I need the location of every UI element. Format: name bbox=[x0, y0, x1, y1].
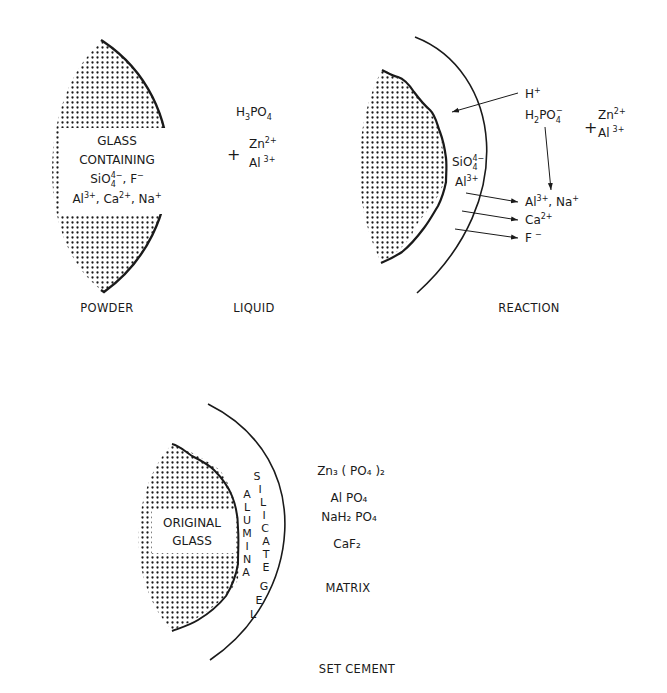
liquid-aluminium-ion: Al3+ bbox=[249, 155, 275, 170]
reacting-glass-core bbox=[359, 70, 445, 262]
reaction-zinc-ion: Zn2+ bbox=[598, 107, 626, 122]
phosphoric-acid-label: H3PO4 bbox=[236, 105, 272, 122]
matrix-sodium-dihydrogen-phosphate: NaH₂ PO₄ bbox=[321, 510, 377, 524]
surface-silicate-ion: SiO44− bbox=[452, 154, 484, 172]
matrix-calcium-fluoride: CaF₂ bbox=[333, 537, 361, 551]
original-glass-label-line1: ORIGINAL bbox=[163, 516, 221, 530]
reaction-aluminium-ion: Al3+ bbox=[598, 125, 624, 140]
liquid-caption: LIQUID bbox=[233, 301, 274, 315]
svg-text:L: L bbox=[244, 501, 251, 514]
reaction-plus-sign: + bbox=[584, 118, 597, 137]
glass-ionomer-setting-diagram: GLASS CONTAINING SiO44−, F− Al3+, Ca2+, … bbox=[0, 0, 667, 693]
silicate-gel-label: S I L I C A T E bbox=[254, 470, 271, 574]
svg-text:N: N bbox=[243, 553, 251, 566]
svg-text:A: A bbox=[242, 566, 250, 579]
powder-caption: POWDER bbox=[80, 301, 133, 315]
svg-text:M: M bbox=[242, 527, 252, 540]
powder-panel: GLASS CONTAINING SiO44−, F− Al3+, Ca2+, … bbox=[52, 40, 175, 315]
svg-text:E: E bbox=[256, 594, 263, 607]
al-na-release-arrow bbox=[466, 193, 518, 202]
gel-word-label: G E L bbox=[250, 580, 268, 621]
released-al-na-ions: Al3+, Na+ bbox=[525, 194, 579, 209]
proton-arrow bbox=[452, 93, 518, 112]
proton-label: H+ bbox=[525, 86, 541, 101]
ca-release-arrow bbox=[462, 211, 518, 220]
svg-text:S: S bbox=[254, 470, 261, 483]
svg-text:T: T bbox=[262, 548, 270, 561]
svg-text:A: A bbox=[243, 488, 251, 501]
surface-aluminium-ion: Al3+ bbox=[455, 174, 478, 189]
matrix-label: MATRIX bbox=[326, 581, 371, 595]
glass-label-line1: GLASS bbox=[97, 134, 137, 148]
liquid-plus-sign: + bbox=[227, 145, 240, 164]
released-calcium-ion: Ca2+ bbox=[525, 212, 553, 227]
original-glass-label-line2: GLASS bbox=[172, 534, 212, 548]
svg-text:U: U bbox=[243, 514, 251, 527]
glass-label-line2: CONTAINING bbox=[79, 153, 155, 167]
liquid-panel: H3PO4 + Zn2+ Al3+ LIQUID bbox=[227, 105, 277, 315]
alumina-gel-label: A L U M I N A bbox=[242, 488, 252, 579]
dihydrogen-phosphate-label: H2PO4− bbox=[525, 106, 563, 125]
reaction-caption: REACTION bbox=[498, 301, 559, 315]
matrix-aluminium-phosphate: Al PO₄ bbox=[331, 491, 368, 505]
svg-text:L: L bbox=[260, 496, 267, 509]
svg-text:I: I bbox=[245, 540, 248, 553]
set-cement-caption: SET CEMENT bbox=[319, 662, 396, 676]
matrix-zinc-phosphate: Zn₃ ( PO₄ )₂ bbox=[317, 464, 385, 478]
svg-text:C: C bbox=[261, 522, 269, 535]
svg-text:A: A bbox=[262, 535, 270, 548]
reaction-panel: H+ H2PO4− + Zn2+ Al3+ SiO44− Al3+ Al3+, … bbox=[359, 37, 625, 315]
released-fluoride-ion: F− bbox=[525, 230, 542, 245]
svg-text:I: I bbox=[258, 483, 261, 496]
svg-text:E: E bbox=[263, 561, 270, 574]
liquid-zinc-ion: Zn2+ bbox=[249, 136, 277, 151]
phosphate-arrow bbox=[545, 127, 551, 190]
svg-text:L: L bbox=[250, 608, 257, 621]
svg-text:I: I bbox=[262, 509, 265, 522]
svg-text:G: G bbox=[260, 580, 269, 593]
set-cement-panel: ORIGINAL GLASS A L U M I N A S I L I C A… bbox=[139, 404, 396, 676]
